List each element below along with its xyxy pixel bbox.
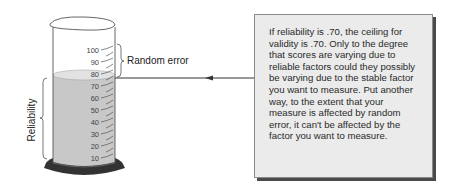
scale-label-90: 90 xyxy=(91,58,99,67)
callout-box: If reliability is .70, the ceiling for v… xyxy=(254,14,433,178)
scale-label-80: 80 xyxy=(91,70,99,79)
scale-label-30: 30 xyxy=(91,130,99,139)
random-error-brace xyxy=(117,44,124,77)
scale-label-40: 40 xyxy=(91,118,99,127)
scale-label-100: 100 xyxy=(86,46,99,55)
callout-text: If reliability is .70, the ceiling for v… xyxy=(269,26,422,142)
cylinder-liquid xyxy=(53,75,115,166)
arrowhead-icon xyxy=(205,76,213,81)
scale-label-20: 20 xyxy=(91,142,99,151)
scale-label-70: 70 xyxy=(91,82,99,91)
random-error-label: Random error xyxy=(127,55,189,66)
reliability-brace xyxy=(40,78,47,159)
scale-label-10: 10 xyxy=(91,154,99,163)
cylinder-rim xyxy=(50,17,115,30)
scale-label-60: 60 xyxy=(91,94,99,103)
liquid-surface xyxy=(53,70,115,80)
scale-label-50: 50 xyxy=(91,106,99,115)
reliability-label: Reliability xyxy=(26,99,37,142)
